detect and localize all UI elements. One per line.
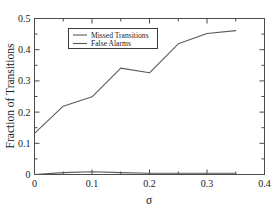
y-tick-label-4: 0.4: [18, 44, 31, 55]
y-tick-label-3: 0.3: [18, 75, 31, 86]
chart-legend: Missed Transitions False Alarms: [69, 29, 158, 49]
x-tick-label-2: 0.2: [143, 178, 156, 189]
x-tick-label-4: 0.4: [258, 178, 271, 189]
x-axis-title: σ: [146, 194, 153, 206]
legend-label-false-alarms: False Alarms: [91, 39, 131, 48]
x-tick-label-1: 0.1: [86, 178, 99, 189]
y-axis-title: Fraction of Transitions: [4, 43, 16, 148]
y-tick-label-5: 0.5: [18, 13, 31, 24]
y-tick-label-2: 0.2: [18, 107, 31, 118]
x-tick-label-3: 0.3: [201, 178, 214, 189]
y-tick-label-0: 0: [26, 169, 31, 180]
line-chart: 00.10.20.30.4 00.10.20.30.40.5 σ Fractio…: [0, 0, 277, 208]
chart-figure: 00.10.20.30.4 00.10.20.30.40.5 σ Fractio…: [0, 0, 277, 208]
y-tick-label-1: 0.1: [18, 138, 31, 149]
x-tick-label-0: 0: [32, 178, 37, 189]
